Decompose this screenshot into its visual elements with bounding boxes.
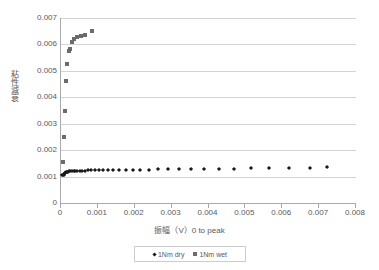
- data-point: [93, 168, 97, 172]
- data-point: [77, 169, 81, 173]
- y-axis-tick-label: 0.002: [3, 146, 57, 154]
- data-point: [308, 165, 312, 169]
- data-point: [67, 49, 71, 53]
- data-point: [106, 168, 110, 172]
- diamond-marker-icon: [152, 252, 156, 256]
- plot-area: [60, 18, 356, 204]
- data-point: [202, 167, 206, 171]
- data-point: [71, 169, 75, 173]
- data-point: [68, 47, 72, 51]
- y-axis-tick-label: 0.006: [3, 40, 57, 48]
- gridline: [61, 177, 356, 178]
- data-point: [66, 169, 70, 173]
- data-point: [62, 135, 66, 139]
- x-axis-tick-mark: [355, 204, 356, 208]
- x-axis-tick-labels: 00.0010.0020.0030.0040.0050.0060.0070.00…: [60, 209, 356, 221]
- data-point: [166, 167, 170, 171]
- data-point: [86, 168, 90, 172]
- x-axis-tick-mark: [134, 204, 135, 208]
- chart-container: 粘性減衰 00.0010.0020.0030.0040.0050.0060.00…: [0, 0, 379, 270]
- data-point: [72, 37, 76, 41]
- y-axis-tick-label: 0.007: [3, 14, 57, 22]
- x-axis-tick-label: 0.004: [197, 209, 217, 217]
- y-axis-tick-label: 0: [3, 199, 57, 207]
- gridline: [61, 97, 356, 98]
- data-point: [63, 171, 67, 175]
- data-point: [67, 169, 71, 173]
- data-point: [79, 34, 83, 38]
- data-point: [217, 167, 221, 171]
- x-axis-title: 振幅（V）0 to peak: [0, 224, 379, 235]
- data-point: [111, 168, 115, 172]
- x-axis-tick-mark: [60, 204, 61, 208]
- y-axis-tick-labels: 00.0010.0020.0030.0040.0050.0060.007: [0, 18, 57, 204]
- gridline: [61, 203, 356, 204]
- data-point: [232, 166, 236, 170]
- data-point: [64, 170, 68, 174]
- data-point: [64, 79, 68, 83]
- x-axis-tick-mark: [97, 204, 98, 208]
- data-point: [70, 169, 74, 173]
- gridline: [61, 18, 356, 19]
- gridline: [61, 71, 356, 72]
- x-axis-tick-mark: [244, 204, 245, 208]
- data-point: [324, 165, 328, 169]
- gridline: [61, 44, 356, 45]
- data-point: [63, 109, 67, 113]
- x-axis-tick-label: 0.002: [124, 209, 144, 217]
- legend-item-dry[interactable]: 1Nm dry: [153, 251, 184, 258]
- data-point: [63, 171, 67, 175]
- data-point: [101, 168, 105, 172]
- data-point: [83, 168, 87, 172]
- data-point: [73, 169, 77, 173]
- data-point: [80, 169, 84, 173]
- x-axis-tick-label: 0.003: [161, 209, 181, 217]
- x-axis-tick-label: 0.005: [234, 209, 254, 217]
- data-point: [117, 168, 121, 172]
- x-axis-tick-label: 0.001: [87, 209, 107, 217]
- y-axis-tick-label: 0.005: [3, 67, 57, 75]
- x-axis-tick-label: 0.006: [271, 209, 291, 217]
- x-axis-tick-label: 0.007: [308, 209, 328, 217]
- x-axis-tick-label: 0: [58, 209, 62, 217]
- data-point: [97, 168, 101, 172]
- gridline: [61, 124, 356, 125]
- data-point: [189, 167, 193, 171]
- data-point: [131, 168, 135, 172]
- data-point: [249, 166, 253, 170]
- y-axis-tick-label: 0.003: [3, 120, 57, 128]
- data-point: [61, 160, 65, 164]
- data-point: [68, 169, 72, 173]
- x-axis-tick-mark: [171, 204, 172, 208]
- data-point: [90, 29, 94, 33]
- data-point: [89, 168, 93, 172]
- legend-label-dry: 1Nm dry: [158, 251, 184, 258]
- y-axis-tick-label: 0.004: [3, 93, 57, 101]
- data-point: [138, 167, 142, 171]
- data-point: [75, 169, 79, 173]
- data-point: [83, 33, 87, 37]
- x-axis-tick-mark: [208, 204, 209, 208]
- legend-label-wet: 1Nm wet: [199, 251, 227, 258]
- x-axis-tick-mark: [318, 204, 319, 208]
- data-point: [124, 168, 128, 172]
- gridline: [61, 150, 356, 151]
- data-point: [287, 166, 291, 170]
- x-axis-tick-mark: [281, 204, 282, 208]
- y-axis-tick-label: 0.001: [3, 173, 57, 181]
- data-point: [65, 62, 69, 66]
- data-point: [156, 167, 160, 171]
- data-point: [147, 167, 151, 171]
- data-point: [75, 35, 79, 39]
- x-axis-tick-label: 0.008: [345, 209, 365, 217]
- square-marker-icon: [193, 252, 197, 256]
- chart-legend: 1Nm dry 1Nm wet: [134, 246, 246, 262]
- legend-item-wet[interactable]: 1Nm wet: [193, 251, 227, 258]
- data-point: [65, 170, 69, 174]
- data-point: [267, 166, 271, 170]
- data-point: [177, 167, 181, 171]
